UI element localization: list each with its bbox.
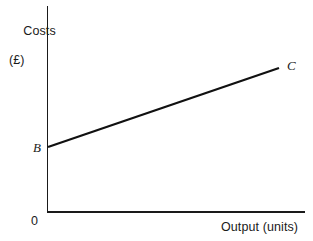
origin-label: 0 [31,214,38,229]
x-axis-title: Output (units) [221,220,298,235]
total-cost-line [48,68,279,147]
point-label-c: C [287,58,296,73]
cost-function-figure: Costs (£) Output (units) 0 B C [0,0,313,241]
y-axis-unit-text: (£) [9,53,56,68]
point-label-b: B [33,140,41,155]
y-axis-title-text: Costs [23,24,55,38]
y-axis-title: Costs (£) [9,9,56,98]
